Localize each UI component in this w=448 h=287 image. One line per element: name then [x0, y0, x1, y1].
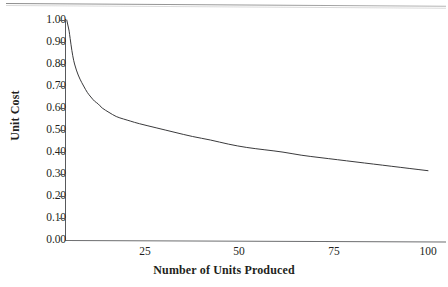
- unit-cost-curve: [67, 20, 428, 171]
- figure-container: 1.00 0.90 0.80 0.70 0.60 0.50 0.40 0.30: [0, 0, 448, 287]
- chart-curve-svg: [0, 0, 448, 287]
- chart-plot-area: 1.00 0.90 0.80 0.70 0.60 0.50 0.40 0.30: [0, 0, 448, 287]
